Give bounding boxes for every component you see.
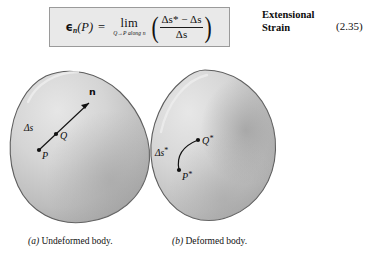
epsilon-argument: (P) xyxy=(77,20,93,34)
normal-vector-label-a: n xyxy=(89,86,96,97)
equation-name-line2: Strain xyxy=(262,22,342,35)
point-q-label-a: Q xyxy=(60,130,67,141)
point-p-label-b: P* xyxy=(182,170,192,182)
caption-b-text: Deformed body. xyxy=(185,236,247,246)
caption-b-tag: (b) xyxy=(172,236,183,246)
figure-area: Δs P Q n xyxy=(0,58,372,267)
panel-b-deformed-body: Δs* P* Q* xyxy=(143,58,293,237)
limit-subscript: Q→P along n xyxy=(113,31,145,37)
caption-a-tag: (a) xyxy=(28,236,39,246)
point-p-dot-a xyxy=(37,148,41,152)
caption-panel-a: (a) Undeformed body. xyxy=(28,236,113,246)
epsilon-symbol: ϵ xyxy=(66,20,73,34)
caption-panel-b: (b) Deformed body. xyxy=(172,236,247,246)
equation-box: ϵn(P) = lim Q→P along n ( Δs* − Δs Δs ) xyxy=(49,7,230,47)
equation-expression: ϵn(P) = lim Q→P along n ( Δs* − Δs Δs ) xyxy=(66,14,214,40)
limit-op-text: lim xyxy=(121,17,139,30)
body-shading-a xyxy=(10,71,149,222)
equation-name-label: Extensional Strain xyxy=(262,9,342,35)
point-p-dot-b xyxy=(177,168,181,172)
point-q-dot-a xyxy=(54,132,58,136)
point-p-label-a: P xyxy=(42,150,48,161)
caption-a-text: Undeformed body. xyxy=(41,236,112,246)
equation-row: ϵn(P) = lim Q→P along n ( Δs* − Δs Δs ) … xyxy=(0,0,372,56)
fraction: Δs* − Δs Δs xyxy=(160,14,204,40)
fraction-denominator: Δs xyxy=(174,28,189,41)
equation-lhs: ϵn(P) xyxy=(66,20,94,35)
limit-operator: lim Q→P along n xyxy=(113,17,145,36)
right-paren: ) xyxy=(205,15,212,38)
equation-name-line1: Extensional xyxy=(262,9,342,22)
left-paren: ( xyxy=(151,15,158,38)
fraction-numerator: Δs* − Δs xyxy=(160,14,204,27)
equation-number: (2.35) xyxy=(336,20,363,32)
arc-length-label-b: Δs* xyxy=(155,146,168,158)
point-q-dot-b xyxy=(196,138,200,142)
equals-sign: = xyxy=(98,20,105,35)
point-q-label-b: Q* xyxy=(202,134,213,146)
arc-length-label-a: Δs xyxy=(24,123,33,133)
